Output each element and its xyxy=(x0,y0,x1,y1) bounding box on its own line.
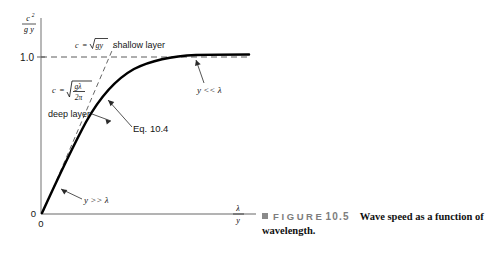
equation-label: Eq. 10.4 xyxy=(133,123,168,134)
y-tick-label-1: 1.0 xyxy=(20,52,34,63)
figure-container: c 2 g y 1.0 0 0 λ y c = gy shallow layer xyxy=(0,0,502,257)
deep-formula-numerator: gλ xyxy=(75,82,83,91)
deep-formula-denominator: 2π xyxy=(75,93,83,102)
y-axis-label-exponent: 2 xyxy=(32,12,35,18)
shallow-layer-label: shallow layer xyxy=(113,40,165,50)
deep-formula-c: c xyxy=(52,85,56,95)
deep-layer-leader-line xyxy=(92,114,111,121)
y-axis-label-numerator: c xyxy=(26,14,30,23)
figure-caption: FIGURE10.5Wave speed as a function of wa… xyxy=(262,210,500,238)
deep-layer-annotation: c = gλ 2π deep layer xyxy=(48,81,111,124)
shallow-limit-annotation: y << λ xyxy=(195,60,222,95)
deep-limit-label: y >> λ xyxy=(83,195,109,205)
x-axis-label-denominator: y xyxy=(235,216,240,225)
y-tick-label-0: 0 xyxy=(31,208,36,219)
x-tick-label-0: 0 xyxy=(38,218,43,229)
shallow-limit-label: y << λ xyxy=(196,85,222,95)
square-bullet-icon xyxy=(262,213,268,219)
shallow-limit-arrow-icon xyxy=(195,60,201,66)
equation-annotation: Eq. 10.4 xyxy=(108,100,168,134)
deep-layer-label: deep layer xyxy=(48,109,90,119)
deep-limit-annotation: y >> λ xyxy=(61,189,109,205)
shallow-formula-equals: = xyxy=(82,41,87,50)
wave-speed-plot: c 2 g y 1.0 0 0 λ y c = gy shallow layer xyxy=(0,0,268,257)
shallow-formula-c: c xyxy=(75,41,79,50)
y-axis-label: c 2 g y xyxy=(22,12,36,34)
y-axis-label-denominator-y: y xyxy=(29,25,34,34)
x-axis-label-numerator: λ xyxy=(235,204,240,213)
shallow-layer-annotation: c = gy shallow layer xyxy=(75,39,165,51)
shallow-formula-radicand: gy xyxy=(96,41,104,50)
y-axis-label-denominator-g: g xyxy=(24,25,28,34)
deep-formula-equals: = xyxy=(59,85,65,95)
figure-keyword: FIGURE xyxy=(273,211,325,222)
figure-number: 10.5 xyxy=(326,211,350,222)
